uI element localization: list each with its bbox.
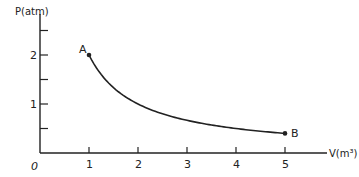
y-tick-label: 2 — [30, 49, 37, 62]
x-tick-label: 3 — [184, 158, 191, 171]
point-label-b: B — [291, 127, 299, 140]
x-tick-label: 5 — [282, 158, 289, 171]
state-points: AB — [79, 43, 299, 140]
point-b — [283, 131, 288, 136]
y-axis-label: P(atm) — [15, 6, 49, 17]
x-tick-label: 1 — [86, 158, 93, 171]
point-label-a: A — [79, 43, 87, 56]
pv-chart: 12 12345 P(atm) V(m³) 0 AB — [0, 0, 359, 177]
x-tick-label: 2 — [135, 158, 142, 171]
x-axis-label: V(m³) — [329, 148, 357, 159]
origin-label: 0 — [31, 160, 38, 173]
y-tick-label: 1 — [30, 98, 37, 111]
x-ticks: 12345 — [86, 147, 289, 171]
pv-curve — [89, 55, 285, 133]
point-a — [87, 53, 92, 58]
x-tick-label: 4 — [233, 158, 240, 171]
y-ticks: 12 — [30, 31, 48, 129]
